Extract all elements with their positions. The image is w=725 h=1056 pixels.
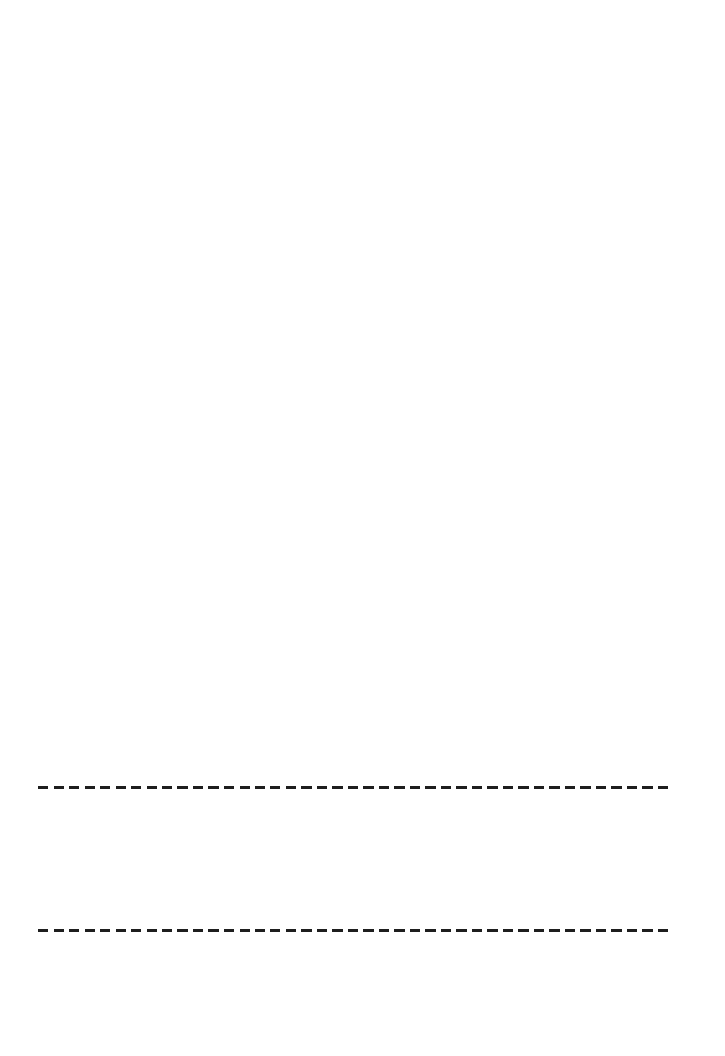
blank-area-between-lines — [38, 792, 670, 926]
dashed-line-top — [38, 786, 670, 789]
document-page — [0, 0, 725, 1056]
dashed-line-bottom — [38, 929, 670, 932]
